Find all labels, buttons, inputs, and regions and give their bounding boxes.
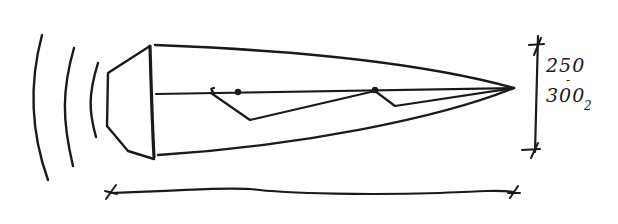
fold-hook	[211, 88, 214, 92]
horizontal-dimension-line	[110, 188, 514, 194]
wave-arc-outer	[34, 35, 48, 180]
node-dot-right	[372, 87, 378, 93]
fold-line-left	[211, 91, 375, 120]
dimension-suffix: 2	[584, 100, 593, 112]
cone-axis	[156, 88, 514, 94]
tick-right	[508, 186, 520, 198]
cone-bottom-edge	[158, 88, 514, 155]
wave-arc-inner	[91, 63, 98, 137]
tick-bottom	[522, 143, 540, 158]
cone-top-edge	[155, 45, 514, 88]
wave-arcs	[34, 35, 98, 180]
emitter-head	[107, 46, 154, 159]
wave-arc-middle	[65, 48, 74, 166]
cone-body	[155, 45, 514, 155]
node-dot-left	[235, 89, 241, 95]
emitter-outline	[107, 46, 154, 159]
dimension-bottom-value: 300	[546, 86, 585, 105]
horizontal-dimension	[105, 185, 520, 199]
vertical-dimension	[522, 36, 544, 158]
sketch-canvas	[0, 0, 618, 224]
emitter-face	[150, 46, 154, 157]
